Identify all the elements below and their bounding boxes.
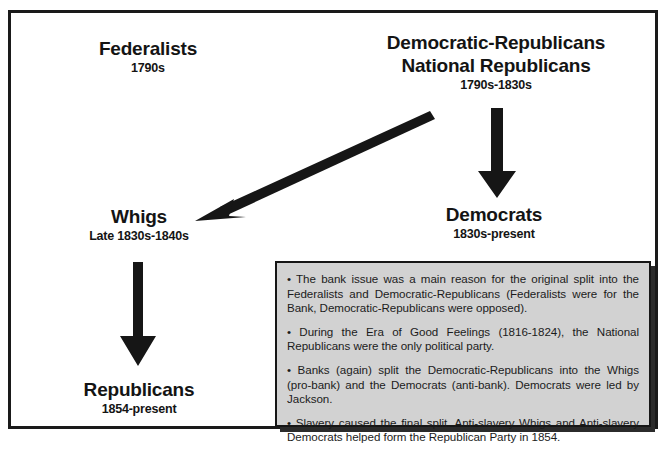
node-federalists-years: 1790s — [68, 60, 228, 76]
node-democratic-republicans-years: 1790s-1830s — [354, 77, 638, 93]
node-federalists: Federalists 1790s — [68, 37, 228, 76]
note-item-1: • The bank issue was a main reason for t… — [287, 272, 639, 316]
arrow-diagonal-icon-demrep-to-whigs — [187, 103, 437, 233]
node-federalists-name: Federalists — [68, 37, 228, 60]
arrow-down-icon-whigs-to-republicans — [111, 258, 171, 373]
node-democrats-name: Democrats — [414, 203, 574, 226]
node-republicans-years: 1854-present — [59, 401, 219, 417]
node-national-republicans-name: National Republicans — [354, 54, 638, 77]
note-item-4: • Slavery caused the final split. Anti-s… — [287, 416, 639, 445]
node-republicans: Republicans 1854-present — [59, 378, 219, 417]
node-republicans-name: Republicans — [59, 378, 219, 401]
node-democrats-years: 1830s-present — [414, 226, 574, 242]
node-democratic-republicans: Democratic-Republicans National Republic… — [354, 31, 638, 93]
node-democrats: Democrats 1830s-present — [414, 203, 574, 242]
notes-box: • The bank issue was a main reason for t… — [275, 261, 651, 427]
diagram-outer-frame: Federalists 1790s Democratic-Republicans… — [8, 10, 658, 429]
note-item-3: • Banks (again) split the Democratic-Rep… — [287, 363, 639, 407]
node-democratic-republicans-name: Democratic-Republicans — [354, 31, 638, 54]
diagram-page: Federalists 1790s Democratic-Republicans… — [0, 0, 669, 455]
note-item-2: • During the Era of Good Feelings (1816-… — [287, 325, 639, 354]
arrow-down-icon-demrep-to-democrats — [471, 103, 531, 203]
